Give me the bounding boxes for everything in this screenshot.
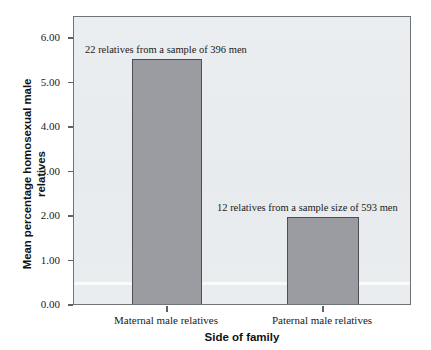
- y-tick-label: 4.00: [20, 120, 60, 132]
- plot-background: [74, 17, 410, 304]
- y-tick-label: 5.00: [20, 76, 60, 88]
- x-axis-title: Side of family: [73, 331, 411, 343]
- bar: [287, 217, 359, 305]
- y-tick-label: 3.00: [20, 165, 60, 177]
- bar-chart: Mean percentage homosexual male relative…: [0, 0, 431, 350]
- x-tick-mark: [166, 306, 168, 312]
- x-tick-label: Maternal male relatives: [81, 314, 251, 326]
- plot-area: 22 relatives from a sample of 396 men12 …: [73, 16, 411, 305]
- y-tick-label: 1.00: [20, 254, 60, 266]
- y-tick-label: 2.00: [20, 209, 60, 221]
- bar: [132, 59, 202, 305]
- scan-artifact-line: [74, 282, 410, 285]
- x-tick-label: Paternal male relatives: [237, 314, 407, 326]
- y-tick-label: 0.00: [20, 298, 60, 310]
- x-tick-mark: [322, 306, 324, 312]
- bar-annotation: 22 relatives from a sample of 396 men: [85, 44, 247, 55]
- y-tick-label: 6.00: [20, 31, 60, 43]
- bar-annotation: 12 relatives from a sample size of 593 m…: [217, 202, 398, 213]
